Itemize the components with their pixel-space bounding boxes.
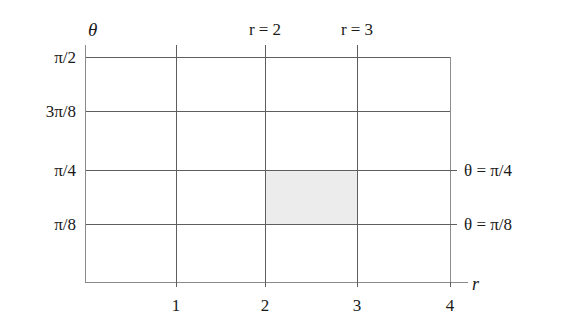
x-tick-mark-2 [265, 282, 266, 287]
gridline-r-1 [176, 45, 177, 282]
gridline-theta-3pi-over-8 [85, 111, 450, 112]
gridline-theta-pi-over-8 [85, 224, 450, 225]
gridline-theta-pi-over-4 [85, 170, 450, 171]
y-tick-label-pi-over-4: π/4 [14, 162, 76, 179]
x-tick-mark-3 [357, 282, 358, 287]
gridline-theta-pi-over-2 [85, 57, 450, 58]
plot-grid [85, 45, 450, 282]
y-tick-mark-pi-over-4 [450, 170, 457, 171]
y-tick-label-3pi-over-8: 3π/8 [14, 103, 76, 120]
r-axis-line [85, 282, 468, 283]
x-tick-mark-1 [176, 282, 177, 287]
y-tick-label-pi-over-8: π/8 [14, 216, 76, 233]
annotation-theta-equals-pi-over-8: θ = π/8 [464, 216, 512, 233]
x-tick-label-4: 4 [446, 297, 455, 314]
theta-axis-line [85, 45, 86, 282]
polar-grid-figure: θ r π/2 3π/8 π/4 π/8 1 2 3 4 r = 2 r = 3… [0, 0, 569, 328]
y-tick-label-pi-over-2: π/2 [14, 49, 76, 66]
r-axis-label: r [472, 275, 479, 293]
x-tick-label-2: 2 [261, 297, 270, 314]
gridline-r-3 [357, 45, 358, 282]
annotation-r-equals-3: r = 3 [341, 21, 373, 38]
annotation-theta-equals-pi-over-4: θ = π/4 [464, 162, 512, 179]
annotation-r-equals-2: r = 2 [249, 21, 281, 38]
y-tick-mark-pi-over-8 [450, 224, 457, 225]
x-tick-mark-4 [450, 282, 451, 287]
theta-axis-label: θ [88, 20, 97, 39]
x-tick-label-3: 3 [353, 297, 362, 314]
gridline-r-2 [265, 45, 266, 282]
x-tick-label-1: 1 [172, 297, 181, 314]
